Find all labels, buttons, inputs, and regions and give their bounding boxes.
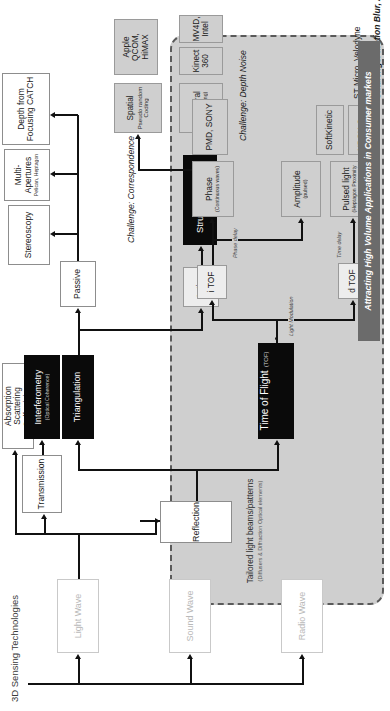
passive-riser-depth-from-focusing (55, 114, 78, 116)
consumer-markets-banner-text: Attracting High Volume Applications in C… (364, 71, 374, 310)
vendor-apple-line1: Apple (122, 37, 131, 58)
dtof-out (353, 223, 355, 263)
node-depth-from-focusing[interactable]: Depth from Focusing CATCH (2, 73, 50, 145)
arrowhead-triangulation (75, 440, 81, 445)
vendor-kinect360[interactable]: Kinect 360 (179, 47, 223, 75)
itof-to-phase (212, 223, 214, 241)
node-stereoscopy[interactable]: Stereoscopy (8, 205, 50, 265)
label-phase-delay: Phase delay (232, 227, 238, 259)
node-time-of-flight-label: Time of Flight (259, 370, 270, 430)
node-phase-label: Phase (205, 177, 214, 201)
node-interferometry-label: Interferometry (34, 370, 44, 425)
node-dtof-label: d TOF (348, 269, 357, 292)
light-wave-split (44, 533, 156, 535)
arrowhead-amplitude (298, 218, 304, 223)
node-radio-wave[interactable]: Radio Wave (281, 579, 323, 653)
arrowhead-multi-apertures (50, 171, 55, 177)
node-interferometry[interactable]: Interferometry (Optical Coherence) (24, 355, 60, 439)
arrowhead-depth-from-focusing (50, 112, 55, 118)
vendor-kinect360-label: Kinect 360 (192, 48, 210, 74)
tof-split-v (212, 319, 354, 321)
node-stereoscopy-label: Stereoscopy (24, 212, 33, 259)
arrowhead-spatial (135, 134, 141, 139)
itof-out (212, 241, 214, 265)
arrowhead-light-wave (75, 654, 81, 659)
node-sound-wave[interactable]: Sound Wave (169, 579, 211, 653)
diagram-canvas: 3D Sensing Technologies Radio Wave Sound… (0, 0, 390, 711)
node-spatial-subtitle: Pseudo random Coding (137, 84, 150, 132)
node-amplitude-subtitle: (pulsed) (303, 180, 309, 199)
passive-bus (77, 115, 79, 261)
arrowhead-time-of-flight (274, 440, 280, 445)
node-light-wave-label: Light Wave (73, 594, 83, 639)
passive-riser-multi-apertures (55, 173, 78, 175)
challenge-correspondence: Challenge: Correspondence (126, 136, 136, 243)
node-reflection[interactable]: Reflection (160, 501, 232, 543)
node-amplitude[interactable]: Amplitude (pulsed) (281, 161, 321, 217)
tof-out (276, 321, 278, 343)
triangulation-out (78, 331, 80, 355)
node-spatial-label: Spatial (126, 95, 135, 120)
arrowhead-itof (209, 300, 215, 305)
node-time-of-flight-suffix: (TOF) (263, 351, 270, 367)
arrowhead-passive (75, 308, 81, 313)
passive-riser-stereoscopy (55, 233, 78, 235)
node-reflection-label: Reflection (191, 502, 201, 542)
arrowhead-dtof (350, 300, 356, 305)
arrowhead-active (198, 308, 204, 313)
arrowhead-stereoscopy (50, 231, 55, 237)
node-interferometry-subtitle: (Optical Coherence) (45, 374, 51, 420)
node-amplitude-label: Amplitude (293, 170, 302, 207)
node-light-wave[interactable]: Light Wave (57, 579, 99, 653)
vendor-pmd-sony[interactable]: PMD, SONY (192, 99, 228, 155)
arrowhead-interferometry (39, 440, 45, 445)
tailored-connector-v (198, 469, 278, 471)
arrowhead-pulsed-light (350, 218, 356, 223)
node-phase[interactable]: Phase (Continuous waves) (192, 161, 234, 217)
itof-split-v (212, 239, 302, 241)
branch-to-radio-wave (302, 659, 304, 685)
node-passive[interactable]: Passive (60, 261, 96, 307)
node-time-of-flight[interactable]: Time of Flight (TOF) (258, 343, 294, 439)
label-light-modulation: Light Modulation (288, 295, 294, 337)
node-triangulation-label: Triangulation (73, 372, 83, 423)
transmission-up-h (15, 455, 17, 535)
node-passive-label: Passive (73, 269, 83, 299)
tailored-light-label: Tailored light beams/patterns (Diffusers… (246, 471, 264, 591)
vendor-softkinetic[interactable]: SoftKinetic (316, 105, 344, 155)
vendor-apple-line2: QCOM, HiMAX (131, 20, 149, 74)
arrowhead-structured-light (198, 246, 204, 251)
node-pulsed-light-label: Pulsed light (342, 167, 351, 210)
vendor-mv4d[interactable]: MV4D, Intel (179, 15, 223, 43)
arrowhead-radio-wave (299, 654, 305, 659)
vendor-pmd-sony-label: PMD, SONY (205, 104, 214, 151)
triangulation-to-passive (78, 313, 80, 331)
tof-to-dtof (353, 305, 355, 321)
label-time-delay: Time delay (336, 231, 342, 259)
arrowhead-transmission (41, 514, 47, 519)
consumer-markets-banner: Attracting High Volume Applications in C… (358, 41, 380, 341)
node-radio-wave-label: Radio Wave (297, 592, 307, 641)
node-transmission-label: Transmission (37, 459, 47, 510)
tof-to-itof (212, 305, 214, 321)
node-itof[interactable]: i TOF (197, 265, 227, 299)
transmission-to-interferometry (42, 445, 44, 455)
node-multi-apertures[interactable]: Multi-Apertures Pelican, Heptagon (4, 149, 50, 201)
node-transmission[interactable]: Transmission (22, 455, 62, 513)
challenge-depth-noise: Challenge: Depth Noise (238, 50, 248, 141)
node-multi-apertures-label: Multi-Apertures (14, 150, 33, 200)
reflection-out (196, 471, 198, 501)
reflection-to-triangulation (78, 445, 80, 471)
itof-to-amplitude (301, 223, 303, 241)
reflection-split-v (78, 469, 198, 471)
branch-to-reflection-v (140, 520, 160, 522)
vendor-apple[interactable]: Apple QCOM, HiMAX (114, 19, 158, 75)
node-spatial[interactable]: Spatial Pseudo random Coding (114, 83, 162, 133)
tailored-light-subtitle: (Diffusers & Diffraction Optical element… (257, 481, 263, 582)
branch-to-sound-wave (190, 659, 192, 685)
node-triangulation[interactable]: Triangulation (62, 355, 94, 439)
tailored-light-title: Tailored light beams/patterns (246, 479, 255, 584)
triangulation-to-active (201, 313, 203, 331)
tailored-connector-h (277, 445, 279, 471)
root-spine (28, 683, 303, 685)
